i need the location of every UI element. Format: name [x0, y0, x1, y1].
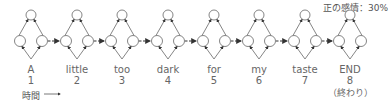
- time-label: 時間: [22, 89, 40, 102]
- token-index: 8: [320, 75, 380, 87]
- end-note: （終わり）: [320, 87, 380, 99]
- unit-8: [334, 10, 367, 59]
- unit-3: [106, 10, 139, 59]
- unit-1: [15, 10, 48, 59]
- unit-5: [198, 10, 231, 59]
- unit-7: [289, 10, 322, 59]
- unit-6: [243, 10, 276, 59]
- unit-2: [61, 10, 94, 59]
- unit-4: [152, 10, 185, 59]
